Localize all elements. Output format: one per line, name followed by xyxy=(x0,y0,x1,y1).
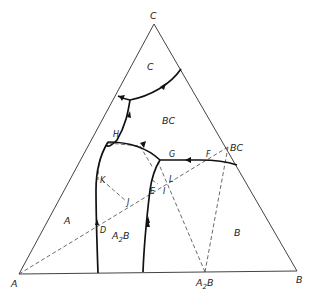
dashed-line-a2b-bc xyxy=(205,147,228,272)
compound-label-bc: BC xyxy=(230,142,244,153)
dashed-line-a-bc xyxy=(19,147,228,274)
dashed-line-arc-l xyxy=(140,146,153,168)
region-label-a2b: A2B xyxy=(111,230,130,244)
point-label-d: D xyxy=(100,226,106,235)
region-label-c: C xyxy=(147,61,154,72)
point-label-g: G xyxy=(169,150,175,159)
dashed-line-a2b-g xyxy=(158,162,205,272)
vertex-label-c: C xyxy=(150,10,157,21)
point-label-i: I xyxy=(163,187,166,196)
region-label-bc: BC xyxy=(162,115,176,126)
region-label-a: A xyxy=(63,215,71,226)
ternary-diagram: C A B A2B BC C BC A B A2B H G F K L E I … xyxy=(0,0,317,294)
boundary-a-a2b xyxy=(96,142,108,273)
point-label-k: K xyxy=(100,176,106,185)
dashed-line-e-i xyxy=(152,180,158,184)
boundary-a2b-b xyxy=(143,160,160,272)
vertex-label-b: B xyxy=(296,274,303,285)
point-label-j: J xyxy=(125,198,130,207)
triangle-outline xyxy=(19,24,297,274)
arrow-icon xyxy=(160,83,166,90)
region-label-b: B xyxy=(234,227,241,238)
point-label-l: L xyxy=(169,175,173,184)
compound-label-a2b: A2B xyxy=(195,277,214,291)
vertex-label-a: A xyxy=(10,278,18,289)
point-label-h: H xyxy=(113,130,119,139)
boundary-h-g xyxy=(108,142,160,160)
point-label-f: F xyxy=(206,150,211,159)
arrow-icon xyxy=(185,157,191,163)
dashed-line-k-j xyxy=(102,180,126,201)
